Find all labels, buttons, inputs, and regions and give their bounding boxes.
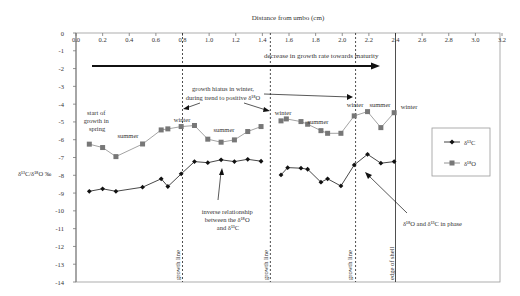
square-marker-icon — [450, 161, 455, 166]
x-tick-label: 3.0 — [471, 36, 479, 43]
season-label-winter: winter — [174, 116, 191, 123]
season-label-winter: winter — [401, 103, 418, 110]
diamond-marker-icon — [87, 189, 92, 194]
growth-line-label: growth line — [174, 250, 181, 280]
inverse-note: inverse relationship between the δ¹⁸O an… — [202, 208, 255, 231]
diamond-marker-icon — [299, 166, 304, 171]
hiatus-note-line2: during trend to positive δ¹⁸O — [186, 94, 261, 101]
diamond-marker-icon — [205, 160, 210, 165]
y-tick-label: -11 — [56, 225, 64, 232]
y-tick-label: -9 — [59, 190, 64, 197]
y-tick-label: -14 — [55, 279, 64, 286]
square-marker-icon — [140, 141, 145, 146]
diamond-marker-icon — [219, 157, 224, 162]
y-tick-label: -5 — [59, 118, 64, 125]
legend-box — [432, 128, 490, 176]
square-marker-icon — [284, 116, 289, 121]
square-marker-icon — [298, 119, 303, 124]
arrowhead-icon — [371, 63, 380, 70]
y-tick-label: -6 — [59, 136, 65, 143]
diamond-marker-icon — [325, 176, 330, 181]
diamond-marker-icon — [339, 184, 344, 189]
start-of-growth-label: start of growth in spring — [84, 109, 111, 132]
diamond-marker-icon — [378, 161, 383, 166]
legend-label-c13: δ¹³C — [464, 139, 475, 146]
season-label-winter: winter — [347, 101, 364, 108]
square-marker-icon — [245, 129, 250, 134]
y-tick-label: -7 — [59, 154, 65, 161]
square-marker-icon — [219, 140, 224, 145]
diamond-marker-icon — [114, 189, 119, 194]
square-marker-icon — [232, 137, 237, 142]
x-tick-label: 2.6 — [418, 36, 427, 43]
in-phase-note: δ¹⁸O and δ¹³C in phase — [403, 220, 462, 227]
square-marker-icon — [179, 124, 184, 129]
x-tick-label: 0.0 — [72, 36, 80, 43]
square-marker-icon — [279, 118, 284, 123]
y-tick-label: 0 — [61, 30, 64, 37]
season-label-summer: summer — [214, 126, 236, 133]
y-tick-label: -2 — [59, 65, 64, 72]
x-tick-label: 2.0 — [338, 36, 346, 43]
x-tick-label: 0.4 — [125, 36, 134, 43]
x-axis-title: Distance from umbo (cm) — [252, 14, 325, 22]
hiatus-note-line1: growth hiatus in winter, — [192, 85, 254, 92]
y-axis-title: δ¹³C/δ¹⁸O ‰ — [18, 170, 52, 177]
diamond-marker-icon — [245, 157, 250, 162]
square-marker-icon — [378, 125, 383, 130]
season-label-summer: summer — [308, 118, 330, 125]
diamond-marker-icon — [232, 159, 237, 164]
y-tick-label: -10 — [55, 207, 64, 214]
y-tick-label: -4 — [59, 101, 65, 108]
growth-line-label: growth line — [346, 250, 353, 280]
square-marker-icon — [259, 124, 264, 129]
x-tick-label: 2.2 — [365, 36, 373, 43]
data-series — [87, 109, 397, 194]
y-tick-label: -8 — [59, 172, 64, 179]
edge-of-shell-label: edge of shell — [388, 247, 395, 280]
square-marker-icon — [100, 145, 105, 150]
y-tick-label: -13 — [55, 261, 64, 268]
square-marker-icon — [325, 131, 330, 136]
square-marker-icon — [392, 110, 397, 115]
square-marker-icon — [87, 142, 92, 147]
diamond-marker-icon — [100, 186, 105, 191]
square-marker-icon — [205, 137, 210, 142]
season-label-winter: winter — [275, 109, 292, 116]
x-tick-label: 0.2 — [99, 36, 107, 43]
legend-label-o18: δ¹⁸O — [464, 160, 476, 167]
x-tick-label: 0.6 — [152, 36, 161, 43]
y-tick-label: -1 — [59, 47, 64, 54]
x-tick-label: 1.2 — [232, 36, 240, 43]
square-marker-icon — [338, 131, 343, 136]
diamond-marker-icon — [140, 185, 145, 190]
isotope-chart: 0-1-2-3-4-5-6-7-8-9-10-11-12-13-140.00.2… — [0, 0, 520, 296]
series-line — [281, 154, 394, 186]
y-tick-label: -3 — [59, 83, 64, 90]
square-marker-icon — [165, 126, 170, 131]
square-marker-icon — [352, 113, 357, 118]
series-line — [281, 112, 394, 134]
x-tick-label: 1.0 — [205, 36, 213, 43]
square-marker-icon — [159, 127, 164, 132]
season-label-summer: summer — [370, 101, 392, 108]
square-marker-icon — [365, 109, 370, 114]
square-marker-icon — [113, 154, 118, 159]
series-line — [89, 159, 261, 191]
x-tick-label: 1.4 — [258, 36, 267, 43]
square-marker-icon — [318, 128, 323, 133]
season-label-summer: summer — [118, 132, 140, 139]
growth-rate-note: decrease in growth rate towards maturity — [264, 52, 379, 60]
x-tick-label: 1.6 — [285, 36, 294, 43]
square-marker-icon — [192, 123, 197, 128]
growth-line-label: growth line — [262, 250, 269, 280]
diamond-marker-icon — [259, 159, 264, 164]
x-tick-label: 2.8 — [445, 36, 453, 43]
x-tick-label: 1.8 — [312, 36, 320, 43]
x-tick-label: 3.2 — [498, 36, 506, 43]
y-tick-label: -12 — [55, 243, 64, 250]
